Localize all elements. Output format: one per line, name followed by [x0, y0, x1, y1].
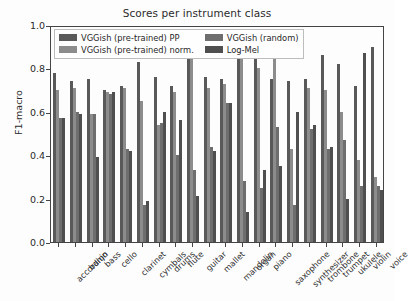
x-tick-mark — [92, 243, 93, 247]
legend-entry: VGGish (pre-trained) PP — [59, 32, 194, 43]
bar — [279, 166, 282, 242]
x-tick-label: voice — [387, 249, 409, 271]
x-tick-mark — [376, 243, 377, 247]
x-tick-mark — [309, 243, 310, 247]
bar — [246, 212, 249, 242]
y-tick-label: 0.8 — [0, 63, 50, 75]
y-tick-label: 1.0 — [0, 20, 50, 32]
bar — [79, 114, 82, 242]
y-tick-label: 0.0 — [0, 237, 50, 249]
x-tick-mark — [175, 243, 176, 247]
legend-label: VGGish (pre-trained) norm. — [81, 45, 194, 55]
bar — [229, 103, 232, 242]
bar — [213, 151, 216, 242]
bar — [112, 92, 115, 242]
x-tick-mark — [359, 243, 360, 247]
y-tick-label: 0.4 — [0, 150, 50, 162]
y-tick-mark — [46, 243, 50, 244]
bar — [263, 170, 266, 242]
x-tick-mark — [125, 243, 126, 247]
x-tick-mark — [275, 243, 276, 247]
legend: VGGish (pre-trained) PPVGGish (pre-train… — [54, 29, 304, 59]
x-tick-mark — [108, 243, 109, 247]
bar — [346, 199, 349, 242]
y-tick-label: 0.2 — [0, 194, 50, 206]
bar — [179, 120, 182, 242]
x-tick-mark — [58, 243, 59, 247]
legend-entry: VGGish (random) — [205, 32, 299, 43]
bar — [363, 53, 366, 242]
y-tick-label: 0.6 — [0, 107, 50, 119]
bar — [146, 201, 149, 242]
legend-column-left: VGGish (pre-trained) PPVGGish (pre-train… — [59, 32, 194, 55]
x-tick-mark — [326, 243, 327, 247]
x-tick-mark — [142, 243, 143, 247]
bar — [129, 151, 132, 242]
bar — [296, 112, 299, 242]
x-tick-mark — [209, 243, 210, 247]
legend-swatch-icon — [59, 46, 77, 53]
bar — [163, 112, 166, 242]
bar — [330, 147, 333, 242]
legend-entry: Log-Mel — [205, 44, 299, 55]
x-tick-mark — [242, 243, 243, 247]
x-tick-mark — [259, 243, 260, 247]
legend-column-right: VGGish (random)Log-Mel — [205, 32, 299, 55]
legend-label: Log-Mel — [227, 45, 259, 55]
bar — [62, 118, 65, 242]
legend-label: VGGish (pre-trained) PP — [81, 33, 179, 43]
x-tick-mark — [342, 243, 343, 247]
legend-label: VGGish (random) — [227, 33, 299, 43]
bar — [96, 157, 99, 242]
bar — [313, 125, 316, 242]
bar — [380, 190, 383, 242]
x-tick-mark — [292, 243, 293, 247]
legend-swatch-icon — [59, 34, 77, 41]
x-tick-label: cello — [119, 249, 140, 269]
page-title: Scores per instrument class — [0, 7, 394, 19]
bar — [196, 196, 199, 242]
legend-entry: VGGish (pre-trained) norm. — [59, 44, 194, 55]
legend-swatch-icon — [205, 46, 223, 53]
legend-swatch-icon — [205, 34, 223, 41]
x-tick-mark — [225, 243, 226, 247]
x-tick-mark — [192, 243, 193, 247]
x-tick-mark — [75, 243, 76, 247]
x-tick-mark — [159, 243, 160, 247]
